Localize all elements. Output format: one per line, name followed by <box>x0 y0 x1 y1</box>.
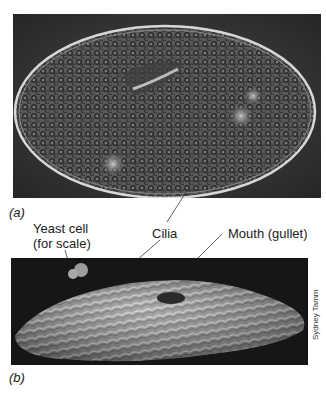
photo-credit: Sydney Tamm <box>311 289 320 340</box>
sem-panel-b <box>11 258 308 365</box>
panel-b-letter: (b) <box>9 370 25 385</box>
